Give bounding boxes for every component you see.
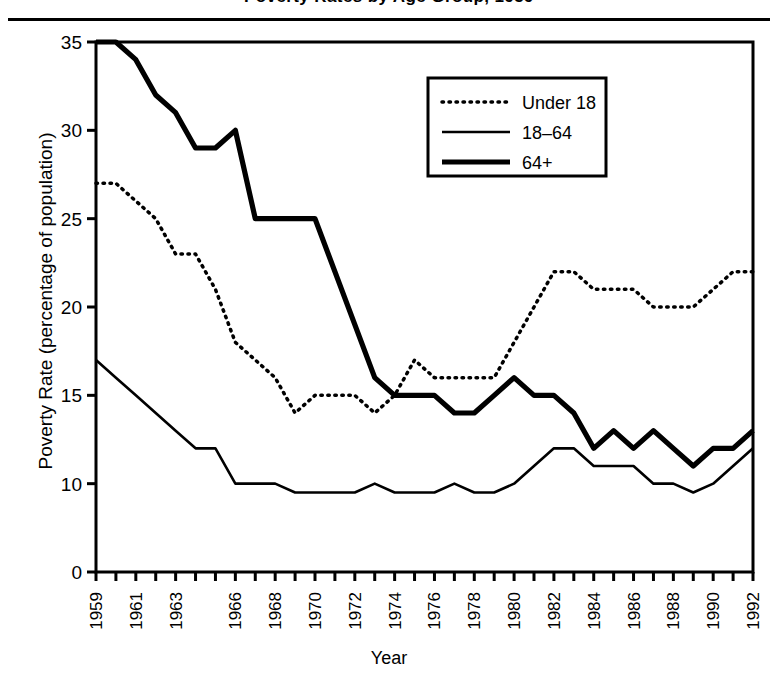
x-tick-label: 1982: [545, 592, 564, 630]
x-tick-label: 1976: [425, 592, 444, 630]
x-tick-label: 1978: [465, 592, 484, 630]
y-tick-label: 10: [61, 474, 82, 495]
x-tick-label: 1966: [226, 592, 245, 630]
x-tick-label: 1970: [306, 592, 325, 630]
plot-area: 0101520253035195919611963196619681970197…: [0, 0, 778, 680]
x-tick-label: 1980: [505, 592, 524, 630]
y-tick-label: 35: [61, 32, 82, 53]
x-tick-label: 1961: [127, 592, 146, 630]
x-tick-label: 1974: [386, 592, 405, 630]
legend-label: 64+: [522, 153, 553, 173]
x-tick-label: 1984: [585, 592, 604, 630]
x-tick-label: 1992: [744, 592, 763, 630]
y-tick-label: 20: [61, 297, 82, 318]
y-tick-label: 15: [61, 385, 82, 406]
x-axis-ticks: 1959196119631966196819701972197419761978…: [87, 572, 763, 630]
x-tick-label: 1988: [664, 592, 683, 630]
y-tick-label: 0: [71, 562, 82, 583]
y-tick-label: 25: [61, 209, 82, 230]
x-tick-label: 1968: [266, 592, 285, 630]
series-line-under-18: [96, 183, 753, 413]
y-tick-label: 30: [61, 120, 82, 141]
x-tick-label: 1990: [704, 592, 723, 630]
legend: Under 1818–6464+: [428, 78, 606, 176]
legend-label: Under 18: [522, 93, 596, 113]
x-tick-label: 1963: [167, 592, 186, 630]
x-tick-label: 1986: [625, 592, 644, 630]
poverty-rate-line-chart: Poverty Rates by Age Group, 1959 Poverty…: [0, 0, 778, 680]
y-axis-ticks: 0101520253035: [61, 32, 96, 583]
series-line-18-64: [96, 360, 753, 493]
x-tick-label: 1959: [87, 592, 106, 630]
data-series-group: [96, 42, 753, 493]
legend-label: 18–64: [522, 123, 572, 143]
x-tick-label: 1972: [346, 592, 365, 630]
